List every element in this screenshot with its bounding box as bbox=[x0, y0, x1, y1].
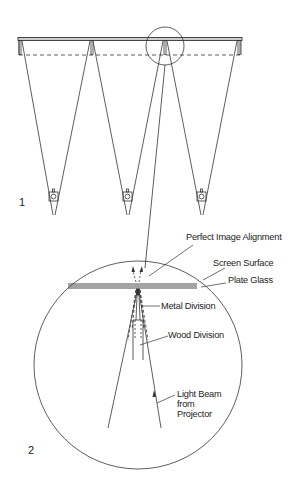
label-screen-surface: Screen Surface bbox=[213, 258, 274, 268]
reflection-arrows bbox=[132, 266, 144, 282]
label-plate-glass: Plate Glass bbox=[228, 275, 273, 285]
detail-leader-line bbox=[145, 65, 165, 268]
dashed-beam-edges bbox=[128, 290, 148, 340]
screen-bar bbox=[18, 38, 242, 56]
light-beam bbox=[108, 292, 161, 428]
panel-1-label: 1 bbox=[19, 196, 25, 208]
diagram-canvas bbox=[0, 0, 307, 492]
plate-glass bbox=[68, 284, 197, 288]
label-wood-division: Wood Division bbox=[168, 330, 224, 340]
projector-2 bbox=[123, 189, 132, 201]
detail-circle-small bbox=[146, 27, 184, 65]
label-light-beam: Light Beam bbox=[177, 389, 221, 399]
panel-2-label: 2 bbox=[28, 444, 34, 456]
screen-divisions bbox=[19, 41, 240, 55]
label-light-beam-from: from bbox=[177, 399, 195, 409]
label-perfect-image-alignment: Perfect Image Alignment bbox=[186, 232, 282, 242]
wood-division bbox=[133, 320, 143, 360]
label-metal-division: Metal Division bbox=[161, 301, 215, 311]
label-light-beam-projector: Projector bbox=[177, 409, 212, 419]
projector-3 bbox=[197, 189, 206, 201]
